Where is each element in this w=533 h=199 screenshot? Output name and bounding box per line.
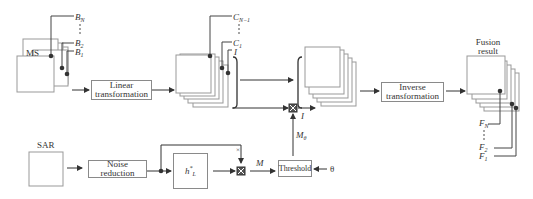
band-1-tap [65,72,70,77]
multiply-node-top [289,104,297,112]
lowpass-filter-block: h*L [173,153,208,189]
threshold-block: Threshold [278,160,312,177]
ms-label: MS [26,48,39,58]
inverse-line2: transformation [386,92,439,101]
times-label: × [236,145,240,155]
diagram-canvas [0,0,533,199]
component-image-stack [176,54,228,107]
ms-image-stack [17,39,68,92]
bracket-left [233,57,237,108]
component-top-label: CN−1 [233,12,250,25]
mask-m-label: M [256,158,264,168]
linear-line2: transformation [95,90,148,99]
band-n-label: BN [75,12,85,25]
mask-theta-label: Mθ [296,130,306,143]
band-1-label: B1 [75,47,84,60]
band-2-tap [60,66,65,71]
bracket-right [298,57,302,108]
sar-image [29,152,63,186]
modified-image-stack [305,47,356,106]
inverse-transformation-block: Inverse transformation [381,82,444,102]
linear-transformation-block: Linear transformation [91,80,152,100]
intensity-label: I [234,47,237,57]
sar-label: SAR [37,140,55,150]
band-n-tap [49,54,54,59]
noise-reduction-block: Noise reduction [88,160,147,178]
noise-line2: reduction [101,169,135,178]
intensity-out-label: I [301,111,304,121]
output-f1-label: F1 [479,151,488,164]
ms-dots [79,24,81,34]
output-fn-label: FN [479,118,489,131]
multiply-node-bottom [237,167,245,175]
theta-label: θ [330,164,334,174]
fusion-result-title: Fusion result [470,38,506,56]
